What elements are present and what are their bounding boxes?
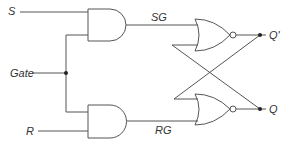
q-label: Q [269, 104, 278, 115]
q-prime-junction-dot [258, 33, 262, 37]
nor-2-bubble [230, 106, 236, 112]
nor-gate-2 [195, 94, 230, 125]
gate-label: Gate [10, 68, 34, 79]
and-gate-1 [88, 9, 126, 41]
sg-label: SG [151, 12, 167, 23]
q-junction-dot [258, 107, 262, 111]
and-gate-2 [88, 105, 127, 138]
nor-gate-1 [195, 19, 230, 51]
gate-junction-dot [64, 71, 68, 75]
nor-1-bubble [230, 32, 236, 38]
r-label: R [26, 126, 34, 137]
gate-bus-lower [66, 73, 88, 112]
latch-diagram [0, 0, 290, 144]
gate-bus-upper [66, 35, 88, 73]
q-prime-label: Q' [269, 30, 280, 41]
rg-label: RG [155, 125, 172, 136]
s-label: S [8, 6, 15, 17]
